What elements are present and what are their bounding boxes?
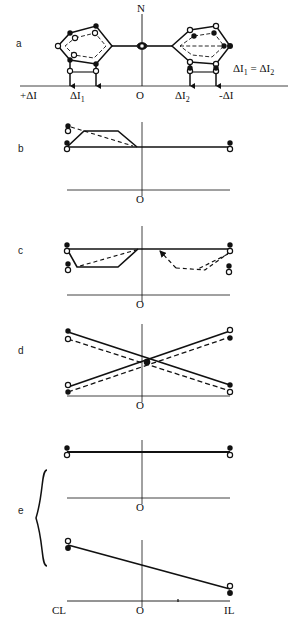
- panel-e-marker-open-2: [227, 452, 232, 457]
- tick-delta-i-1-sub: 1: [81, 95, 85, 104]
- panel-letter-d: d: [18, 345, 24, 356]
- panel-e-marker-filled-1: [64, 445, 69, 450]
- panel-b-graphics: [64, 122, 232, 196]
- panel-d-marker-open-3: [227, 327, 232, 332]
- panel-d-marker-filled-4: [227, 382, 232, 387]
- panel-b-marker-open-3: [227, 146, 232, 151]
- panel-e-marker-filled-3: [65, 545, 71, 551]
- panel-e-marker-open-1: [64, 452, 69, 457]
- right-vertex-filled-4: [221, 43, 226, 48]
- panel-e-marker-filled-4: [227, 590, 233, 596]
- panel-c-right-dashed-1: [176, 252, 230, 270]
- panel-c-marker-open-2: [65, 267, 70, 272]
- panel-d-origin-label: O: [136, 399, 144, 411]
- panel-c-graphics: [64, 226, 232, 302]
- right-vertex-filled-2: [211, 30, 216, 35]
- panel-a-right-ring: [172, 23, 233, 86]
- panel-d-marker-open-4: [227, 389, 232, 394]
- panel-e-brace: [36, 470, 47, 566]
- panel-b-marker-filled-2: [64, 140, 69, 145]
- panel-c-marker-filled-4: [226, 263, 231, 268]
- tick-delta-i-2: ΔI2: [175, 89, 190, 104]
- tick-delta-i-1-main: ΔI: [70, 89, 81, 101]
- axis-label-cl: CL: [52, 604, 66, 616]
- left-vertex-open-2: [92, 30, 97, 35]
- panel-c-marker-open-3: [227, 248, 232, 253]
- panel-letter-e: e: [18, 505, 24, 516]
- relation-sub-2: 2: [270, 68, 274, 77]
- left-vertex-open-4: [71, 52, 76, 57]
- tick-delta-i-2-sub: 2: [186, 95, 190, 104]
- scientific-figure: a b c d e N O +ΔI ΔI1 ΔI2 -ΔI ΔI1 = ΔI2 …: [0, 0, 304, 634]
- relation-annotation: ΔI1 = ΔI2: [233, 62, 274, 77]
- panel-c-marker-filled-3: [227, 242, 232, 247]
- left-vertex-filled-2: [93, 23, 98, 28]
- panel-letter-a: a: [16, 38, 22, 49]
- panel-e-top-origin-label: O: [136, 501, 144, 513]
- left-vertex-open-1: [72, 35, 77, 40]
- panel-e-marker-filled-2: [227, 445, 232, 450]
- tick-delta-i-2-main: ΔI: [175, 89, 186, 101]
- tick-delta-i-1: ΔI1: [70, 89, 85, 104]
- panel-b-marker-filled-3: [227, 140, 232, 145]
- panel-c-marker-open-1: [64, 248, 69, 253]
- panel-e-descending-line: [68, 545, 230, 589]
- panel-e-marker-open-3: [65, 538, 70, 543]
- left-vertex-filled-3: [67, 57, 72, 62]
- left-vertex-open-3: [55, 43, 60, 48]
- right-vertex-open-1: [187, 27, 192, 32]
- right-vertex-open-2: [213, 23, 218, 28]
- panel-d-marker-open-1: [65, 336, 70, 341]
- panel-c-marker-filled-1: [64, 242, 69, 247]
- right-vertex-filled-6: [213, 65, 218, 70]
- panel-b-origin-label: O: [136, 193, 144, 205]
- panel-e-graphics: [36, 440, 233, 607]
- right-vertex-open-3: [187, 59, 192, 64]
- panel-b-marker-open-2: [64, 146, 69, 151]
- panel-letter-b: b: [18, 143, 24, 154]
- figure-canvas: [0, 0, 304, 634]
- panel-a-origin-label: O: [136, 89, 144, 101]
- panel-letter-c: c: [18, 245, 23, 256]
- relation-part-2: = ΔI: [248, 62, 270, 74]
- panel-d-marker-filled-1: [65, 328, 70, 333]
- panel-d-marker-open-2: [65, 382, 70, 387]
- left-vertex-filled-1: [67, 30, 72, 35]
- panel-d-marker-filled-3: [227, 335, 232, 340]
- panel-b-trapezoid: [67, 131, 137, 147]
- panel-c-marker-filled-2: [65, 261, 70, 266]
- panel-e-bottom-origin-label: O: [136, 604, 144, 616]
- right-vertex-filled-3: [227, 43, 233, 49]
- left-vertex-open-5: [67, 68, 72, 73]
- panel-a-center-node-inner: [140, 44, 144, 48]
- panel-d-crossing-point: [144, 359, 151, 366]
- tick-minus-delta-i: -ΔI: [219, 89, 233, 101]
- panel-d-marker-filled-2: [65, 389, 70, 394]
- left-vertex-filled-4: [93, 61, 98, 66]
- axis-label-il: IL: [224, 604, 234, 616]
- right-vertex-filled-5: [187, 65, 192, 70]
- relation-part-1: ΔI: [233, 62, 244, 74]
- panel-a-left-ring: [55, 23, 112, 86]
- panel-d-graphics: [65, 324, 232, 402]
- panel-c-left-polygon: [67, 249, 138, 267]
- panel-b-marker-open-1: [65, 128, 70, 133]
- right-vertex-filled-1: [191, 33, 196, 38]
- north-label: N: [137, 2, 145, 14]
- tick-plus-delta-i: +ΔI: [20, 89, 37, 101]
- panel-c-origin-label: O: [136, 298, 144, 310]
- panel-e-marker-open-4: [227, 583, 232, 588]
- panel-c-right-dashed-arrow: [160, 251, 176, 268]
- right-ring-inner: [180, 33, 224, 57]
- panel-c-marker-open-4: [226, 269, 231, 274]
- left-vertex-open-6: [93, 68, 98, 73]
